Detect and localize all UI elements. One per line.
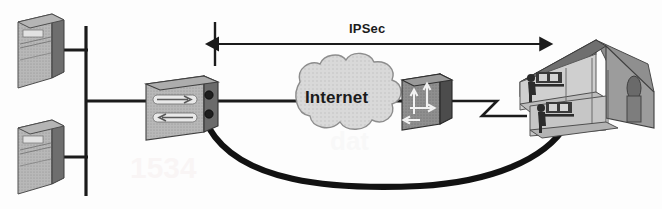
vpn-tunnel-curve bbox=[209, 125, 566, 187]
node-server-top bbox=[18, 14, 64, 88]
link-serial-zigzag bbox=[448, 101, 527, 116]
node-vpn-concentrator bbox=[146, 76, 218, 140]
network-diagram: 1534 dat bbox=[0, 0, 662, 209]
node-home-office-building bbox=[520, 40, 654, 138]
node-router bbox=[402, 74, 452, 130]
internet-cloud-label: Internet bbox=[305, 88, 368, 108]
ipsec-label: IPSec bbox=[349, 21, 385, 36]
svg-text:dat: dat bbox=[330, 126, 369, 156]
node-server-bottom bbox=[18, 120, 64, 194]
svg-text:1534: 1534 bbox=[130, 151, 197, 184]
